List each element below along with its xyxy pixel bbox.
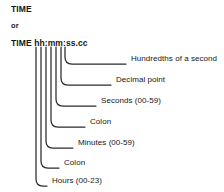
callout-label-hours: Hours (00-23) <box>52 176 102 185</box>
time-syntax-diagram: TIME or TIME hh:mm:ss.cc Hundredths of a… <box>0 0 224 192</box>
callout-label-decimal-point: Decimal point <box>116 75 165 84</box>
leader-line-minutes <box>46 47 73 148</box>
leader-line-decimal-point <box>61 47 111 85</box>
leader-line-hundredths <box>65 47 126 64</box>
callout-label-minutes: Minutes (00-59) <box>78 138 135 147</box>
callout-label-colon-1: Colon <box>64 158 85 167</box>
leader-line-seconds <box>56 47 96 106</box>
callout-label-hundredths: Hundredths of a second <box>131 54 217 63</box>
callout-label-seconds: Seconds (00-59) <box>101 96 161 105</box>
callout-label-colon-2: Colon <box>90 117 111 126</box>
